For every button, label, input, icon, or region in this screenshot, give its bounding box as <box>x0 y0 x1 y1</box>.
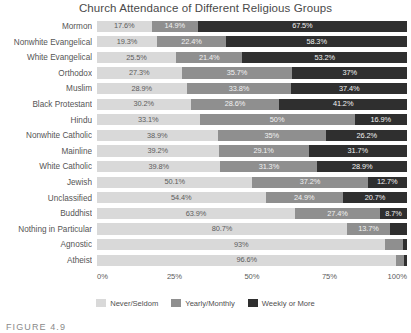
bar-segment: 27.3% <box>97 67 182 78</box>
legend-swatch-icon <box>248 299 258 308</box>
bar-segment: 31.3% <box>220 161 317 172</box>
segment-value-label: 50.1% <box>164 178 184 185</box>
stacked-bar: 50.1%37.2%12.7% <box>97 177 407 188</box>
stacked-bar: 27.3%35.7%37% <box>97 67 407 78</box>
category-label: White Evangelical <box>0 50 92 65</box>
bar-segment: 37% <box>292 67 407 78</box>
bar-segment: 35.7% <box>182 67 293 78</box>
category-label: Nonwhite Evangelical <box>0 35 92 50</box>
segment-value-label: 28.9% <box>352 163 372 170</box>
category-label: Hindu <box>0 113 92 128</box>
segment-value-label: 22.4% <box>181 38 201 45</box>
bar-segment: 28.9% <box>97 83 187 94</box>
category-label: Atheist <box>0 253 92 268</box>
category-label: Black Protestant <box>0 97 92 112</box>
bar-segment: 21.4% <box>176 52 242 63</box>
bar-row: Atheist96.6% <box>0 253 411 268</box>
segment-value-label: 96.6% <box>236 256 256 263</box>
stacked-bar: 19.3%22.4%58.3% <box>97 36 407 47</box>
bar-segment <box>404 255 407 266</box>
legend-item: Never/Seldom <box>96 299 158 308</box>
legend-label: Never/Seldom <box>110 299 158 308</box>
segment-value-label: 29.1% <box>253 147 273 154</box>
segment-value-label: 24.9% <box>294 194 314 201</box>
stacked-bar: 80.7%13.7% <box>97 223 407 234</box>
bar-segment: 39.2% <box>97 145 219 156</box>
bar-row: Orthodox27.3%35.7%37% <box>0 66 411 81</box>
bar-row: White Catholic39.8%31.3%28.9% <box>0 159 411 174</box>
segment-value-label: 80.7% <box>212 225 232 232</box>
category-label: Mormon <box>0 19 92 34</box>
bar-segment: 13.7% <box>347 223 389 234</box>
bar-segment: 35% <box>218 130 327 141</box>
bar-segment: 28.6% <box>191 99 280 110</box>
bar-segment <box>396 255 403 266</box>
bar-segment: 24.9% <box>266 192 343 203</box>
bar-segment: 27.4% <box>295 208 380 219</box>
segment-value-label: 17.6% <box>114 22 134 29</box>
legend-label: Yearly/Monthly <box>185 299 235 308</box>
chart-legend: Never/SeldomYearly/MonthlyWeekly or More <box>0 296 411 310</box>
bar-segment: 22.4% <box>157 36 226 47</box>
category-label: Orthodox <box>0 66 92 81</box>
bar-row: White Evangelical25.5%21.4%53.2% <box>0 50 411 65</box>
segment-value-label: 93% <box>234 241 249 248</box>
legend-item: Yearly/Monthly <box>171 299 235 308</box>
bar-row: Unclassified54.4%24.9%20.7% <box>0 191 411 206</box>
bar-row: Nothing in Particular80.7%13.7% <box>0 222 411 237</box>
bar-segment: 33.1% <box>97 114 200 125</box>
stacked-bar: 33.1%50%16.9% <box>97 114 407 125</box>
bar-row: Mainline39.2%29.1%31.7% <box>0 144 411 159</box>
segment-value-label: 12.7% <box>377 178 397 185</box>
bar-row: Buddhist63.9%27.4%8.7% <box>0 206 411 221</box>
category-label: Agnostic <box>0 237 92 252</box>
segment-value-label: 37.2% <box>300 178 320 185</box>
bar-row: Black Protestant30.2%28.6%41.2% <box>0 97 411 112</box>
bar-row: Muslim28.9%33.8%37.4% <box>0 81 411 96</box>
segment-value-label: 58.3% <box>306 38 326 45</box>
stacked-bar: 28.9%33.8%37.4% <box>97 83 407 94</box>
bar-segment: 17.6% <box>97 21 152 32</box>
segment-value-label: 35% <box>265 132 280 139</box>
segment-value-label: 13.7% <box>358 225 378 232</box>
figure-caption: FIGURE 4.9 <box>6 322 66 332</box>
segment-value-label: 21.4% <box>199 54 219 61</box>
segment-value-label: 25.5% <box>126 54 146 61</box>
stacked-bar: 25.5%21.4%53.2% <box>97 52 407 63</box>
bar-row: Nonwhite Catholic38.9%35%26.2% <box>0 128 411 143</box>
category-label: Muslim <box>0 81 92 96</box>
bar-row: Agnostic93% <box>0 237 411 252</box>
segment-value-label: 63.9% <box>186 210 206 217</box>
category-label: Nonwhite Catholic <box>0 128 92 143</box>
segment-value-label: 39.2% <box>148 147 168 154</box>
segment-value-label: 28.9% <box>132 85 152 92</box>
bar-segment: 50% <box>200 114 355 125</box>
stacked-bar: 39.2%29.1%31.7% <box>97 145 407 156</box>
legend-swatch-icon <box>171 299 181 308</box>
category-label: Unclassified <box>0 191 92 206</box>
plot-area: Mormon17.6%14.9%67.5%Nonwhite Evangelica… <box>0 19 411 271</box>
segment-value-label: 8.7% <box>385 210 401 217</box>
bar-row: Hindu33.1%50%16.9% <box>0 113 411 128</box>
bar-segment: 31.7% <box>309 145 407 156</box>
x-axis-tick-label: 100% <box>388 272 407 281</box>
segment-value-label: 50% <box>270 116 285 123</box>
stacked-bar: 93% <box>97 239 407 250</box>
bar-segment: 37.2% <box>252 177 367 188</box>
stacked-bar: 30.2%28.6%41.2% <box>97 99 407 110</box>
bar-segment: 14.9% <box>152 21 198 32</box>
bar-segment: 19.3% <box>97 36 157 47</box>
category-label: Jewish <box>0 175 92 190</box>
segment-value-label: 37% <box>342 69 357 76</box>
legend-item: Weekly or More <box>248 299 315 308</box>
x-axis-tick-label: 0% <box>97 272 108 281</box>
segment-value-label: 39.8% <box>148 163 168 170</box>
category-label: White Catholic <box>0 159 92 174</box>
bar-segment <box>390 223 407 234</box>
bar-segment: 29.1% <box>219 145 309 156</box>
bar-row: Nonwhite Evangelical19.3%22.4%58.3% <box>0 35 411 50</box>
legend-swatch-icon <box>96 299 106 308</box>
x-axis-tick-label: 50% <box>244 272 259 281</box>
bar-segment: 20.7% <box>343 192 407 203</box>
bar-segment: 41.2% <box>279 99 407 110</box>
